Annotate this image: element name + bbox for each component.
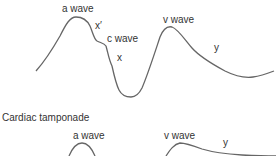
- normal-jvp-waveform: [36, 17, 274, 97]
- v-wave-label: v wave: [163, 15, 194, 25]
- tamponade-a-wave-label: a wave: [73, 131, 105, 141]
- tamponade-a-wave-curve: [69, 143, 95, 156]
- c-wave-label: c wave: [107, 34, 138, 44]
- y-label: y: [214, 43, 219, 53]
- cardiac-tamponade-title: Cardiac tamponade: [2, 113, 89, 123]
- waveform-diagram: [0, 0, 276, 156]
- x-label: x: [117, 53, 122, 63]
- tamponade-v-wave-label: v wave: [164, 131, 195, 141]
- a-wave-label: a wave: [62, 4, 94, 14]
- x-prime-label: x′: [95, 21, 102, 31]
- tamponade-y-label: y: [223, 138, 228, 148]
- tamponade-v-wave-curve: [166, 143, 276, 156]
